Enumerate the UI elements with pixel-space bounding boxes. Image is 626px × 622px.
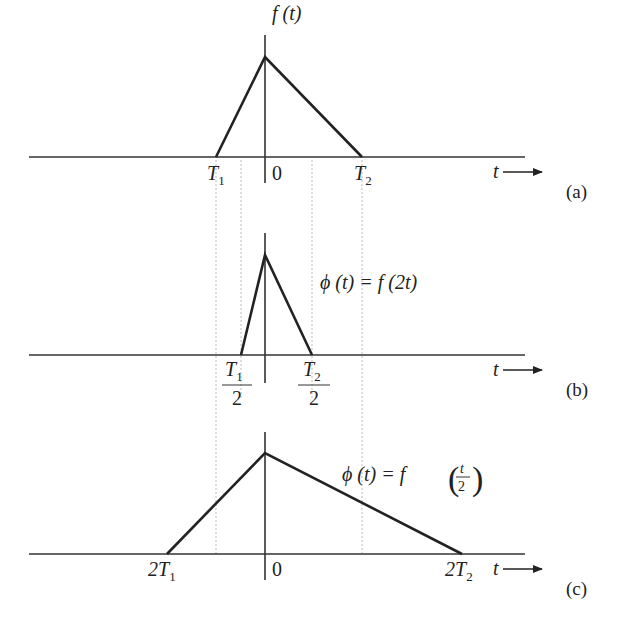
compressed-pulse — [241, 255, 312, 355]
stretched-pulse — [167, 453, 462, 554]
tick-T1-half: T1 — [225, 358, 243, 384]
equation: ϕ (t) = f (2t) — [320, 271, 417, 294]
panel-label: (a) — [566, 181, 587, 203]
paren-right: ) — [472, 460, 483, 498]
tick-T2: T2 — [354, 162, 372, 188]
equation: ϕ (t) = f — [342, 463, 408, 486]
time-scaling-diagram: f (t) T1 0 T2 t (a) ϕ (t) = f (2t) T1 2 … — [0, 0, 626, 622]
tick-zero: 0 — [272, 558, 282, 580]
panel-b: ϕ (t) = f (2t) T1 2 T2 2 t (b) — [29, 233, 588, 409]
panel-label: (c) — [566, 578, 587, 600]
tick-T1-den: 2 — [232, 387, 242, 409]
tick-2T1: 2T1 — [148, 558, 176, 584]
tick-zero: 0 — [272, 162, 282, 184]
axis-label-t: t — [493, 557, 499, 579]
panel-label: (b) — [566, 379, 588, 401]
triangle-pulse — [216, 57, 362, 157]
axis-label-t: t — [493, 160, 499, 182]
tick-2T2: 2T2 — [445, 558, 473, 584]
axis-label-t: t — [493, 358, 499, 380]
tick-T2-den: 2 — [309, 387, 319, 409]
guide-lines — [216, 160, 362, 554]
equation-num: t — [460, 461, 465, 476]
panel-a: f (t) T1 0 T2 t (a) — [29, 2, 587, 203]
function-label: f (t) — [272, 2, 302, 25]
equation-den: 2 — [458, 479, 465, 494]
panel-c: ϕ (t) = f ( t 2 ) 2T1 0 2T2 t (c) — [29, 432, 587, 600]
